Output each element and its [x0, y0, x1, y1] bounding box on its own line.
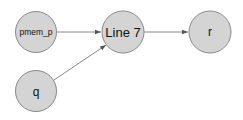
node-pmem-p[interactable]: pmem_p: [16, 12, 57, 53]
node-label-r: r: [208, 25, 212, 39]
node-label-q: q: [33, 85, 40, 99]
edge-q-to-line7: [54, 45, 106, 80]
node-line7[interactable]: Line 7: [102, 11, 144, 53]
node-label-line7: Line 7: [105, 25, 140, 40]
node-q[interactable]: q: [16, 71, 57, 112]
node-r[interactable]: r: [189, 11, 231, 53]
node-label-pmem-p: pmem_p: [19, 27, 52, 37]
graph-diagram: pmem_p Line 7 r q: [0, 0, 243, 120]
